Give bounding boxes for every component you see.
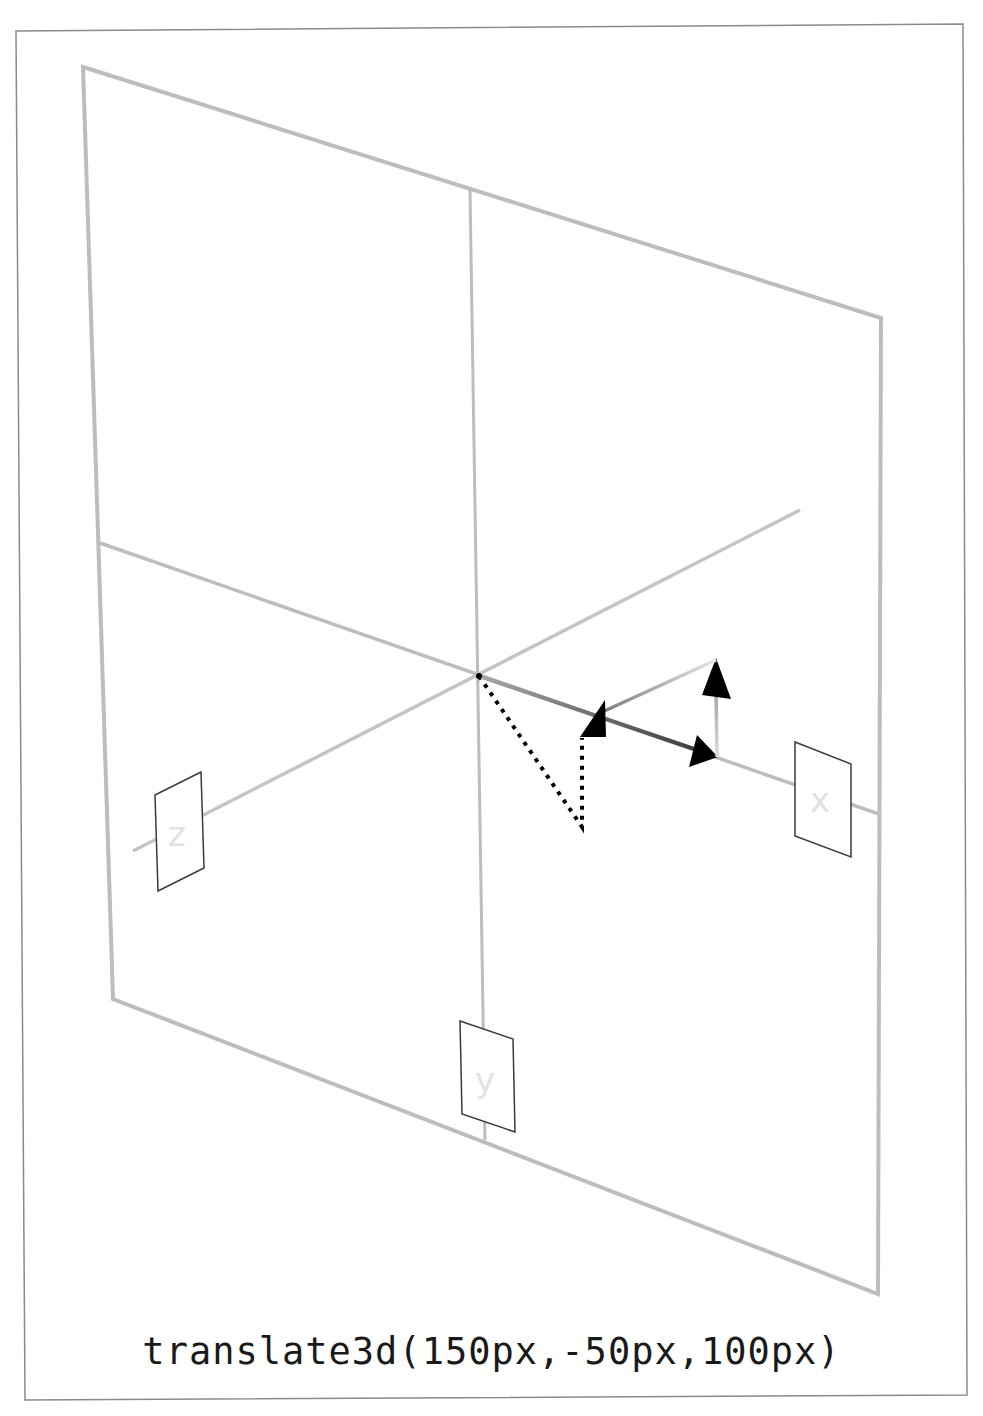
x-translation-arrow-shaft: [479, 676, 700, 751]
translate3d-diagram: z x y: [0, 0, 983, 1416]
diagram-figure: z x y translate3d(150px,-50px,100px): [0, 0, 983, 1416]
projection-dotted-path: [479, 676, 582, 827]
z-axis-label: z: [155, 772, 204, 891]
origin-point: [476, 673, 482, 679]
z-axis-line: [133, 510, 800, 851]
z-translation-arrow-shaft: [600, 660, 716, 713]
y-translation-arrow-shaft: [716, 690, 717, 757]
y-axis-label: y: [460, 1021, 515, 1132]
y-axis-line: [470, 190, 485, 1140]
x-label-text: x: [810, 780, 830, 820]
z-label-text: z: [168, 814, 186, 854]
transform-caption: translate3d(150px,-50px,100px): [0, 1330, 983, 1373]
figure-border: [16, 24, 967, 1400]
z-translation-arrowhead-icon: [580, 700, 606, 737]
y-label-text: y: [475, 1060, 495, 1100]
x-axis-label: x: [795, 742, 851, 857]
x-translation-arrowhead-icon: [689, 735, 718, 767]
